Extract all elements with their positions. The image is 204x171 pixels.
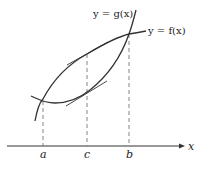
tick-label-b: b [126, 148, 133, 161]
tangent-f-at-c [67, 42, 108, 65]
curve-label-f: y = f(x) [147, 25, 186, 36]
x-axis-arrow-icon [179, 144, 185, 149]
tangent-g-at-c [66, 81, 107, 106]
diagram-canvas: x a c b y = g(x) y = f(x) [0, 0, 204, 171]
x-axis-label: x [188, 140, 195, 153]
curve-label-g: y = g(x) [92, 8, 133, 19]
tick-label-a: a [40, 148, 47, 161]
tick-label-c: c [84, 148, 90, 161]
